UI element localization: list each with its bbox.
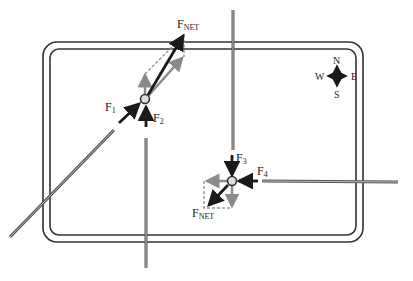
- car2-f3-label: F3: [236, 151, 247, 166]
- car2-object: [228, 177, 237, 186]
- car1-object: [141, 95, 150, 104]
- car1-f1-arrow: [119, 104, 139, 123]
- car2-fnet-label: FNET: [192, 206, 214, 221]
- compass-north-label: N: [333, 55, 340, 66]
- compass-south-label: S: [334, 89, 340, 100]
- car2-force-group: [204, 155, 258, 208]
- car2-f4-label: F4: [257, 164, 268, 179]
- force-diagram: FNET F1 F2 F3 F4 FNET N S E W: [0, 0, 413, 281]
- car1-f1-label: F1: [105, 100, 116, 115]
- compass-east-label: E: [351, 71, 357, 82]
- compass-rose: [328, 66, 346, 86]
- car1-fnet-label: FNET: [177, 17, 199, 32]
- car1-f2-label: F2: [153, 111, 164, 126]
- car2-fnet-arrow: [209, 185, 228, 205]
- compass-west-label: W: [315, 71, 325, 82]
